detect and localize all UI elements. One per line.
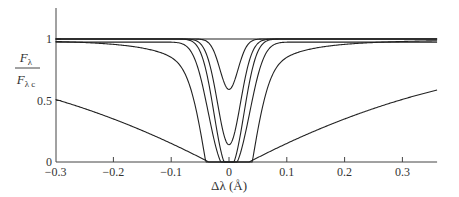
- y-tick-label: 0.5: [37, 94, 52, 108]
- x-tick-label: −0.1: [160, 165, 182, 179]
- y-tick-label: 1: [46, 32, 52, 46]
- y-axis-title-denominator: Fλ c: [16, 72, 36, 89]
- x-tick-label: 0.3: [395, 165, 410, 179]
- curves: [56, 39, 437, 162]
- x-axis-title: Δλ (Å): [211, 178, 247, 193]
- x-tick-label: −0.2: [103, 165, 125, 179]
- y-axis-title-numerator: Fλ: [19, 50, 33, 67]
- line-profile-chart: −0.3−0.2−0.100.10.20.300.51Δλ (Å)FλFλ c: [0, 0, 459, 197]
- x-tick-label: 0: [226, 165, 232, 179]
- labels: −0.3−0.2−0.100.10.20.300.51Δλ (Å)FλFλ c: [15, 32, 410, 193]
- curve-line-1: [56, 39, 437, 89]
- x-tick-label: 0.1: [279, 165, 294, 179]
- curve-line-3: [56, 39, 437, 162]
- axes: [56, 8, 437, 162]
- x-tick-label: 0.2: [337, 165, 352, 179]
- y-tick-label: 0: [46, 155, 52, 169]
